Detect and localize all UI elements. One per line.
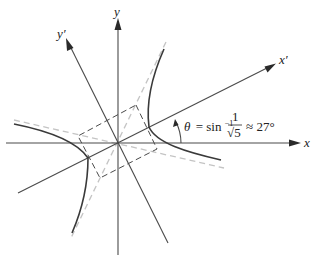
fraction-numerator: 1 — [232, 109, 239, 124]
hyperbola-left-branch — [14, 124, 88, 233]
y-prime-axis — [70, 46, 168, 243]
y-axis-label: y — [112, 4, 120, 19]
asymptotes — [14, 42, 224, 240]
angle-indicator — [173, 119, 181, 143]
svg-text:θ = sin −1: θ = sin −1 — [184, 119, 233, 134]
rotated-hyperbola-diagram: y y′ x′ x θ = sin −1 1 √5 ≈ 27° — [0, 0, 320, 261]
x-axis-arrowhead — [289, 140, 301, 147]
fraction-denominator: √5 — [227, 125, 241, 140]
theta-symbol: θ — [184, 119, 191, 134]
y-axis-arrowhead — [115, 18, 122, 30]
rotated-axes — [18, 38, 276, 243]
standard-axes — [6, 18, 301, 255]
equals-sin: = sin — [196, 119, 222, 134]
approx-value: ≈ 27° — [246, 119, 275, 134]
x-axis-label: x — [303, 135, 310, 150]
angle-formula: θ = sin −1 1 √5 ≈ 27° — [184, 109, 275, 140]
y-prime-axis-label: y′ — [55, 26, 66, 41]
y-prime-arrowhead — [66, 38, 74, 51]
x-prime-arrowhead — [265, 64, 277, 73]
x-prime-axis-label: x′ — [278, 52, 288, 67]
